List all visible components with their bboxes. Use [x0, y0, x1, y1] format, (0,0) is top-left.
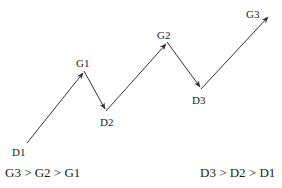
- peaks-comparison: G3 > G2 > G1: [5, 166, 80, 180]
- zigzag-path: [0, 0, 282, 188]
- arrow-g1-d2: [84, 71, 105, 109]
- arrow-d1-g1: [27, 73, 83, 143]
- troughs-comparison: D3 > D2 > D1: [200, 166, 275, 180]
- arrow-g2-d3: [167, 42, 200, 87]
- label-g3: G3: [246, 8, 259, 20]
- arrow-d3-g3: [201, 17, 268, 89]
- arrow-d2-g2: [106, 44, 166, 111]
- label-g1: G1: [76, 57, 89, 69]
- label-d3: D3: [192, 94, 205, 106]
- label-g2: G2: [157, 29, 170, 41]
- label-d1: D1: [12, 146, 25, 158]
- label-d2: D2: [100, 116, 113, 128]
